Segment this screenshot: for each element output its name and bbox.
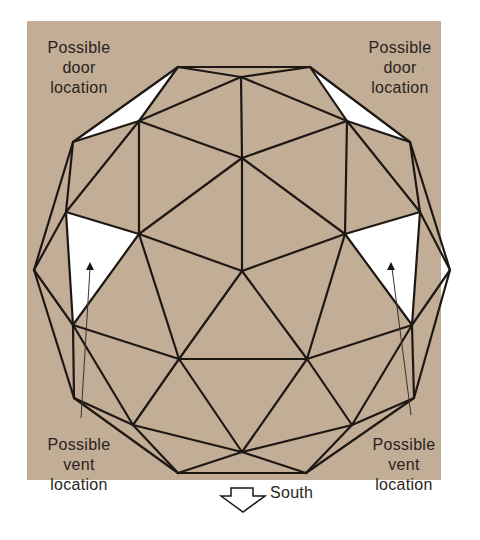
direction-label-south: South <box>270 483 330 503</box>
vent-panel-left <box>66 212 139 325</box>
door-location-label-right: Possible door location <box>355 38 445 98</box>
vent-panel-right <box>345 212 420 325</box>
vent-location-label-right: Possible vent location <box>359 435 449 495</box>
down-arrow-icon <box>221 488 265 512</box>
door-location-label-left: Possible door location <box>34 38 124 98</box>
vent-location-label-left: Possible vent location <box>34 435 124 495</box>
